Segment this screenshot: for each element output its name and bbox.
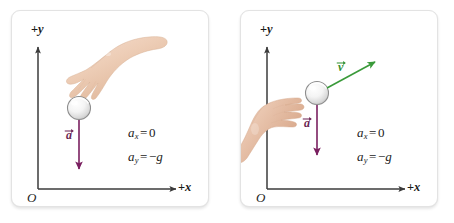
acceleration-vector-label: a [66, 129, 72, 141]
origin-label: O [27, 191, 36, 204]
ball [68, 97, 91, 120]
y-axis-label: +y [31, 23, 43, 36]
physics-figure: +y +x O a ax=0 ay=−g [0, 0, 454, 223]
velocity-vector [327, 62, 375, 88]
panel-right-graphic [241, 11, 437, 206]
vector-arrow-overline-icon [336, 55, 346, 60]
hand-illustration [241, 98, 304, 163]
panel-left-graphic [12, 11, 208, 206]
vector-arrow-overline-icon [64, 123, 74, 128]
equation-ax: ax=0 [128, 126, 155, 141]
origin-label: O [256, 191, 265, 204]
velocity-vector-label: v [338, 61, 343, 73]
x-axis-label: +x [178, 181, 191, 194]
panel-left: +y +x O a ax=0 ay=−g [11, 10, 209, 207]
equation-ax: ax=0 [357, 126, 384, 141]
acceleration-vector-label: a [304, 117, 310, 129]
vector-arrow-overline-icon [302, 111, 312, 116]
ball [306, 82, 329, 105]
y-axis-label: +y [260, 23, 272, 36]
hand-illustration [66, 37, 167, 102]
panel-right: +y +x O a v [240, 10, 438, 207]
equation-ay: ay=−g [128, 150, 163, 165]
equation-ay: ay=−g [357, 150, 392, 165]
x-axis-label: +x [407, 181, 420, 194]
